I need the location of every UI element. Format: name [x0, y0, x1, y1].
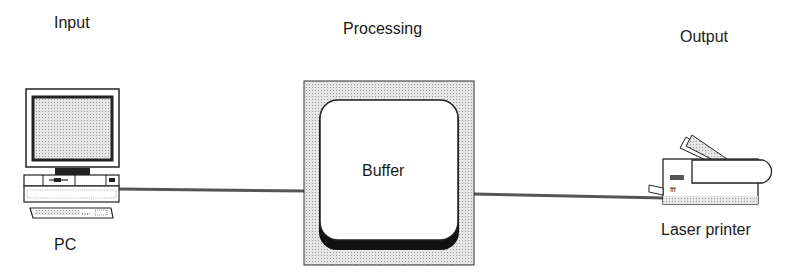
connector-pc-to-buffer — [119, 189, 304, 191]
laser-printer-label: Laser printer — [661, 221, 751, 239]
input-heading: Input — [54, 14, 90, 32]
buffer-label: Buffer — [362, 162, 404, 180]
laser-printer-icon: fff — [649, 135, 772, 204]
output-heading: Output — [680, 28, 728, 46]
connector-buffer-to-printer — [473, 194, 665, 198]
svg-text:fff: fff — [670, 186, 676, 193]
pc-icon — [24, 89, 119, 218]
processing-heading: Processing — [343, 20, 422, 38]
pc-label: PC — [54, 236, 76, 254]
